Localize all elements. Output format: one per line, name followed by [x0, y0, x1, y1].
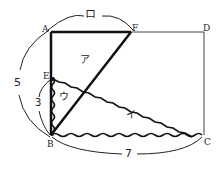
- point-label-F: F: [132, 24, 138, 33]
- region-label-u: ウ: [59, 92, 69, 102]
- region-label-a: ア: [80, 55, 90, 65]
- geometry-diagram: [0, 0, 223, 170]
- region-label-i: イ: [126, 110, 136, 120]
- dimension-label-AF: ロ: [85, 9, 96, 20]
- point-label-D: D: [203, 24, 210, 33]
- point-E-dot: [51, 77, 55, 81]
- dimension-label-BC: 7: [125, 148, 132, 159]
- segment-FB: [51, 32, 131, 135]
- point-label-E: E: [43, 72, 50, 81]
- dimension-label-AB: 5: [14, 77, 21, 88]
- point-label-B: B: [47, 140, 54, 149]
- dimension-label-EB: 3: [35, 98, 41, 108]
- point-B-dot: [50, 132, 54, 136]
- point-label-C: C: [204, 138, 211, 147]
- point-label-A: A: [42, 25, 49, 34]
- arc-AB: [19, 30, 50, 137]
- wavy-segment-BC: [51, 134, 202, 137]
